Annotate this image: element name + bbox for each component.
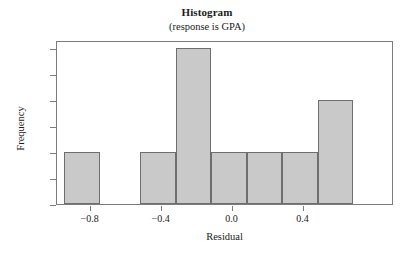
histogram-figure: Histogram (response is GPA) 0.00.51.01.5…: [0, 0, 414, 269]
x-tick-mark: [232, 206, 233, 211]
x-tick-label: 0.4: [273, 213, 333, 224]
histogram-bar: [64, 152, 99, 204]
histogram-bar: [140, 152, 175, 204]
title-block: Histogram (response is GPA): [0, 6, 414, 33]
x-tick-label: −0.4: [131, 213, 191, 224]
x-tick-mark: [303, 206, 304, 211]
x-axis-title: Residual: [56, 231, 393, 242]
x-tick-mark: [90, 206, 91, 211]
y-tick-mark: [50, 49, 56, 50]
page-title: Histogram: [0, 6, 414, 19]
histogram-bar: [282, 152, 317, 204]
y-tick-mark: [50, 205, 56, 206]
y-tick-mark: [50, 101, 56, 102]
histogram-bar: [211, 152, 246, 204]
x-tick-label: 0.0: [202, 213, 262, 224]
plot-area: [57, 42, 392, 204]
histogram-bar: [318, 100, 353, 204]
y-tick-mark: [50, 179, 56, 180]
histogram-bar: [247, 152, 282, 204]
histogram-bar: [176, 48, 211, 204]
x-tick-label: −0.8: [60, 213, 120, 224]
x-tick-mark: [161, 206, 162, 211]
y-axis-title: Frequency: [15, 79, 26, 179]
y-tick-mark: [50, 153, 56, 154]
y-tick-mark: [50, 127, 56, 128]
plot-frame: [56, 41, 393, 205]
chart-subtitle: (response is GPA): [0, 21, 414, 33]
y-tick-mark: [50, 75, 56, 76]
